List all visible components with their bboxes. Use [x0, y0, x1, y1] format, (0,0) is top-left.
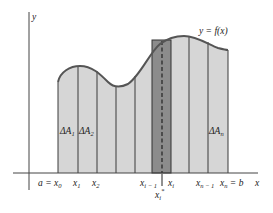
tick-label-x2: x2 [91, 178, 100, 189]
riemann-sum-figure: y x y = f(x) ΔA1 ΔA2 ΔAn a = x0 x1 x2 xi… [0, 0, 273, 213]
tick-label-x1: x1 [72, 178, 80, 189]
sample-point-label: xi* [154, 187, 165, 201]
area-under-curve [58, 20, 228, 173]
y-axis-label: y [31, 12, 37, 22]
tick-label-xn-minus-1: xn − 1 [195, 178, 214, 189]
tick-label-xi: xi [167, 178, 174, 189]
tick-label-a-x0: a = x0 [38, 178, 62, 189]
curve-label: y = f(x) [198, 26, 228, 37]
x-axis-label: x [254, 178, 260, 188]
tick-label-xi-minus-1: xi − 1 [139, 178, 157, 189]
tick-label-xn-b: xn = b [219, 178, 244, 189]
